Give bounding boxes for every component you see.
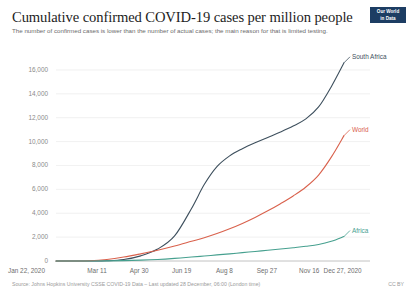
y-axis-tick-6000: 6,000 — [2, 185, 48, 192]
x-axis-tick-6: Nov 16 — [299, 267, 319, 274]
x-axis-tick-3: Jun 19 — [172, 267, 191, 274]
series-leader-1 — [344, 130, 350, 136]
y-axis-tick-12000: 12,000 — [2, 114, 48, 121]
y-axis-tick-8000: 8,000 — [2, 161, 48, 168]
y-axis-tick-2000: 2,000 — [2, 233, 48, 240]
y-axis-tick-4000: 4,000 — [2, 209, 48, 216]
y-axis-tick-0: 0 — [2, 257, 48, 264]
series-label-africa[interactable]: Africa — [352, 227, 368, 234]
chart-container: Cumulative confirmed COVID-19 cases per … — [0, 0, 412, 299]
series-leader-0 — [344, 57, 350, 63]
source-note: Source: Johns Hopkins University CSSE CO… — [12, 281, 260, 287]
y-axis-tick-16000: 16,000 — [2, 66, 48, 73]
x-axis-tick-1: Mar 11 — [87, 267, 106, 274]
y-axis-tick-14000: 14,000 — [2, 90, 48, 97]
x-axis-tick-5: Sep 27 — [257, 267, 277, 274]
y-axis-tick-10000: 10,000 — [2, 138, 48, 145]
series-leader-2 — [344, 231, 350, 237]
series-label-south-africa[interactable]: South Africa — [352, 53, 386, 60]
plot-area — [0, 0, 412, 299]
series-line-world[interactable] — [56, 136, 344, 261]
x-axis-tick-7: Dec 27, 2020 — [324, 267, 362, 274]
series-line-africa[interactable] — [56, 237, 344, 261]
line-chart-svg — [0, 0, 412, 299]
series-line-south-africa[interactable] — [56, 63, 344, 261]
license-link[interactable]: CC BY — [388, 281, 404, 287]
x-axis-tick-0: Jan 22, 2020 — [8, 267, 45, 274]
series-label-world[interactable]: World — [352, 126, 369, 133]
x-axis-tick-4: Aug 8 — [216, 267, 233, 274]
x-axis-tick-2: Apr 30 — [130, 267, 149, 274]
